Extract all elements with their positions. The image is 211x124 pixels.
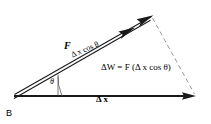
force-line-lower — [14, 20, 151, 98]
work-vector-diagram: F Δ x cos θ ΔW = F (Δ x cos θ) Δ x θ B — [0, 0, 211, 124]
force-tip-arrowhead — [137, 15, 154, 27]
force-vector — [14, 15, 154, 98]
force-line-upper — [15, 17, 152, 95]
force-label: F — [64, 41, 71, 51]
theta-angle-label: θ — [50, 78, 54, 86]
panel-letter-label: B — [6, 109, 12, 118]
displacement-label: Δ x — [96, 95, 108, 104]
projection-connector-dashed — [153, 18, 195, 94]
angle-arc — [58, 74, 62, 96]
work-equation-label: ΔW = F (Δ x cos θ) — [101, 63, 171, 72]
